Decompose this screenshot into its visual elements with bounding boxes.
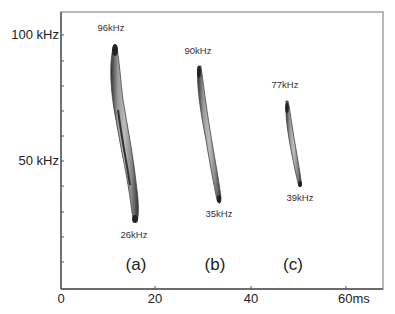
panel-label-b: (b) [205,255,226,274]
panel-label-c: (c) [283,255,303,274]
x-tick-label-20: 20 [148,291,162,306]
panel-label-a: (a) [126,255,147,274]
call-b-end-freq: 35kHz [206,208,233,219]
call-a-start-freq: 96kHz [98,22,125,33]
y-tick-label-50: 50 kHz [19,153,59,168]
spectrogram-chart: 100 kHz 50 kHz 0 20 40 60ms 96kHz 26kHz … [0,0,395,314]
x-tick-label-60ms: 60ms [338,291,370,306]
call-b-start-freq: 90kHz [185,45,212,56]
x-tick-label-0: 0 [57,291,64,306]
call-c-end-freq: 39kHz [287,192,314,203]
call-c-start-freq: 77kHz [272,79,299,90]
plot-frame [61,12,383,289]
x-tick-label-40: 40 [244,291,258,306]
call-a-end-freq: 26kHz [121,229,148,240]
y-tick-label-100: 100 kHz [11,27,59,42]
